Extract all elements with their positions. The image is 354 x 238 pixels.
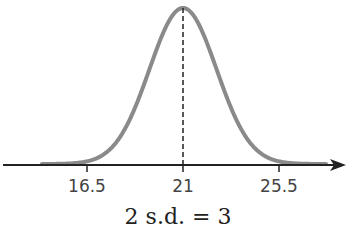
tick-label-16-5: 16.5 bbox=[68, 176, 106, 196]
bell-curve bbox=[42, 8, 326, 164]
normal-distribution-chart: 16.5 21 25.5 2 s.d. = 3 bbox=[0, 0, 354, 238]
tick-label-25-5: 25.5 bbox=[260, 176, 298, 196]
tick-label-21: 21 bbox=[172, 176, 194, 196]
std-dev-caption: 2 s.d. = 3 bbox=[125, 204, 232, 229]
